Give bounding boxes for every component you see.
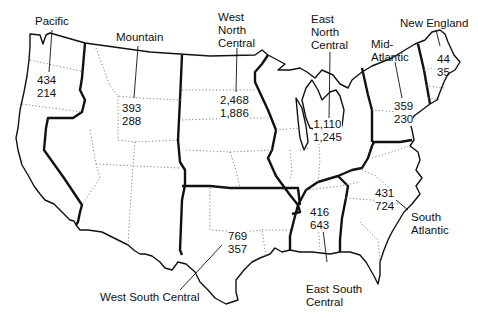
label-wnc-line1: West <box>218 11 255 24</box>
value-bottom: 35 <box>437 66 450 79</box>
label-wnc-line2: North <box>218 24 255 37</box>
label-enc-line3: Central <box>311 39 348 52</box>
value-bottom: 230 <box>394 113 413 126</box>
value-top: 769 <box>228 230 247 243</box>
label-south-atlantic: South Atlantic <box>411 211 449 237</box>
label-wnc-line3: Central <box>218 37 255 50</box>
label-sa-line1: South <box>411 211 449 224</box>
value-top: 1,110 <box>313 118 342 131</box>
value-bottom: 288 <box>122 115 141 128</box>
values-pacific: 434 214 <box>37 74 56 100</box>
label-east-south-central: East South Central <box>306 283 362 309</box>
label-new-england: New England <box>400 17 468 30</box>
values-mountain: 393 288 <box>122 102 141 128</box>
value-top: 2,468 <box>220 94 249 107</box>
value-bottom: 643 <box>310 219 329 232</box>
values-west-south-central: 769 357 <box>228 230 247 256</box>
label-pacific: Pacific <box>35 15 69 28</box>
value-bottom: 1,886 <box>220 107 249 120</box>
value-top: 359 <box>394 100 413 113</box>
label-esc-line1: East South <box>306 283 362 296</box>
value-top: 416 <box>310 206 329 219</box>
label-mid-atlantic: Mid- Atlantic <box>371 38 409 64</box>
values-east-north-central: 1,110 1,245 <box>313 118 342 144</box>
value-top: 431 <box>375 187 394 200</box>
values-west-north-central: 2,468 1,886 <box>220 94 249 120</box>
value-bottom: 214 <box>37 87 56 100</box>
value-bottom: 724 <box>375 200 394 213</box>
label-ma-line1: Mid- <box>371 38 409 51</box>
label-enc-line2: North <box>311 26 348 39</box>
label-west-north-central: West North Central <box>218 11 255 50</box>
value-top: 434 <box>37 74 56 87</box>
label-mountain: Mountain <box>116 31 163 44</box>
label-east-north-central: East North Central <box>311 13 348 52</box>
label-sa-line2: Atlantic <box>411 224 449 237</box>
label-west-south-central: West South Central <box>100 291 200 304</box>
label-ma-line2: Atlantic <box>371 51 409 64</box>
value-top: 393 <box>122 102 141 115</box>
values-south-atlantic: 431 724 <box>375 187 394 213</box>
value-top: 44 <box>437 53 450 66</box>
label-esc-line2: Central <box>306 296 362 309</box>
values-new-england: 44 35 <box>437 53 450 79</box>
values-mid-atlantic: 359 230 <box>394 100 413 126</box>
label-enc-line1: East <box>311 13 348 26</box>
values-east-south-central: 416 643 <box>310 206 329 232</box>
us-census-divisions-map: Pacific Mountain West North Central East… <box>0 0 478 327</box>
value-bottom: 357 <box>228 243 247 256</box>
value-bottom: 1,245 <box>313 131 342 144</box>
